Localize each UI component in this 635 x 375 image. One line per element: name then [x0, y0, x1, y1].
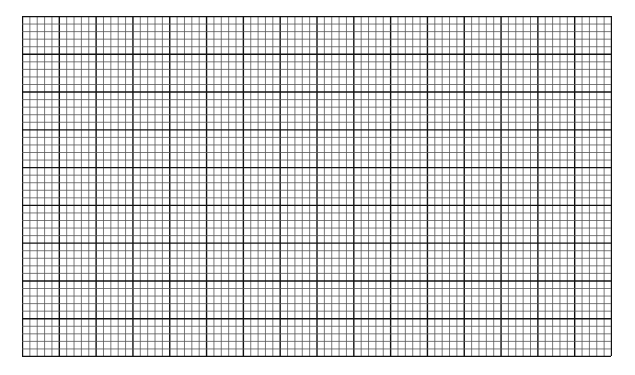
graph-paper-grid	[22, 16, 612, 357]
